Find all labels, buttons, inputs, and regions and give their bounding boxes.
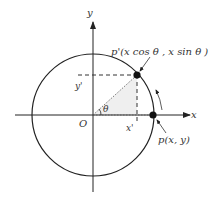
theta-label: θ <box>103 104 109 114</box>
y-axis-label: y <box>86 7 93 18</box>
y-prime-label: y' <box>74 81 83 91</box>
x-prime-label: x' <box>126 123 134 133</box>
p-prime-label: p'(x cos θ , x sin θ ) <box>111 46 208 57</box>
rotation-direction-arrow <box>156 90 162 110</box>
p-pointer <box>157 120 166 133</box>
p-label: p(x, y) <box>158 134 190 145</box>
point-p <box>149 111 156 118</box>
p-prime-pointer <box>140 57 150 71</box>
x-axis-label: x <box>191 109 197 120</box>
rotation-diagram: y x O θ y' x' p'(x cos θ , x sin θ ) p(x… <box>0 0 217 203</box>
origin-label: O <box>79 118 87 129</box>
point-p-prime <box>133 71 140 78</box>
